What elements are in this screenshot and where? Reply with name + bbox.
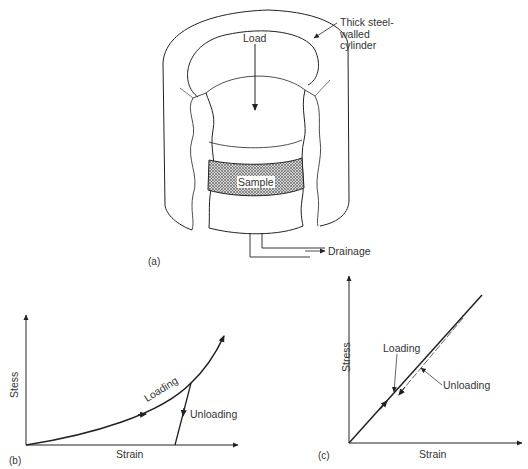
chart-b-unloading-label: Unloading [190, 408, 237, 420]
chart-c-y-axis-label: Stress [340, 342, 352, 372]
chart-b-loading-arrow [138, 414, 146, 415]
panel-b-tag: (b) [9, 455, 21, 466]
chart-c-loading-line [349, 295, 482, 443]
chart-b-y-axis-label: Stess [8, 372, 20, 398]
cylinder-left-cut-outer [190, 98, 195, 230]
chart-b-x-axis-label: Strain [116, 448, 143, 460]
panel-a-tag: (a) [148, 256, 160, 267]
cylinder-label: Thick steel- walled cylinder [340, 17, 394, 52]
chart-c-unloading-leader [421, 368, 442, 385]
piston-bottom-edge [209, 140, 302, 148]
chart-c-loading-arrow [380, 401, 387, 409]
cylinder-leader-line [314, 23, 337, 38]
panel-c-tag: (c) [318, 450, 330, 461]
chart-b-loading-curve [26, 336, 224, 445]
drainage-pipe [250, 233, 325, 257]
chart-b [26, 315, 238, 445]
cylinder-outer-right-wall [320, 45, 349, 226]
load-label: Load [243, 32, 266, 44]
chart-c-loading-label: Loading [383, 342, 420, 354]
base-plate-edge [209, 226, 303, 234]
chart-b-unloading-arrow [183, 408, 184, 416]
chart-c-loading-leader [394, 354, 397, 392]
cylinder-outer-left-wall [163, 63, 192, 230]
chart-c-unloading-arrow [399, 387, 405, 395]
chart-c-x-axis-label: Strain [419, 448, 446, 460]
chart-c [349, 276, 522, 443]
sample-label: Sample [237, 176, 275, 188]
cylinder-right-cut-outer [315, 96, 321, 226]
figure-canvas [0, 0, 528, 469]
chart-c-unloading-label: Unloading [443, 379, 490, 391]
drainage-label: Drainage [328, 245, 371, 257]
